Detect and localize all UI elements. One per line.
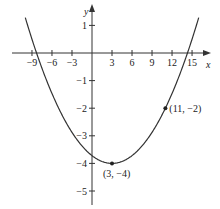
point-marker: [163, 106, 167, 110]
parabola-chart: xy−9−6−336912151−1−2−3−4−5(3, −4)(11, −2…: [0, 0, 220, 209]
x-tick-label: 15: [187, 57, 197, 68]
y-tick-label: −4: [76, 158, 87, 169]
x-tick-label: 9: [150, 57, 155, 68]
x-axis-arrow-icon: [203, 50, 211, 56]
y-tick-label: 1: [82, 20, 87, 31]
y-axis-arrow-icon: [89, 4, 95, 12]
x-tick-label: 12: [167, 57, 177, 68]
point-label: (11, −2): [169, 103, 201, 115]
x-axis-label: x: [205, 59, 211, 70]
x-tick-label: 3: [110, 57, 115, 68]
y-tick-label: −5: [76, 186, 87, 197]
y-axis-label: y: [83, 6, 89, 17]
point-marker: [110, 161, 114, 165]
parabola-curve: [25, 18, 198, 164]
y-tick-label: −1: [76, 75, 87, 86]
y-tick-label: −2: [76, 103, 87, 114]
x-tick-label: −3: [67, 57, 78, 68]
x-tick-label: −9: [27, 57, 38, 68]
x-tick-label: 6: [130, 57, 135, 68]
point-label-vertex: (3, −4): [103, 168, 130, 180]
y-tick-label: −3: [76, 130, 87, 141]
x-tick-label: −6: [47, 57, 58, 68]
